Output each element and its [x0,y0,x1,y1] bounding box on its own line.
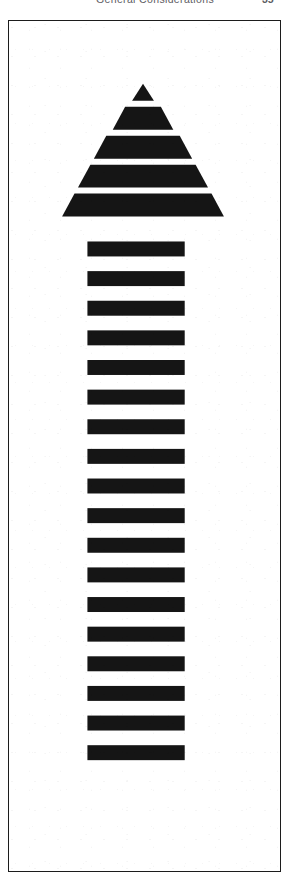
shaft-bar [87,508,184,523]
shaft-bar [87,390,184,405]
shaft-bar [87,449,184,464]
shaft-bar [87,567,184,582]
arrowhead [62,84,224,217]
shaft-bar [87,271,184,286]
arrowhead-band [78,165,208,188]
arrowhead-band [94,136,192,159]
shaft-bar [87,745,184,760]
shaft-bar [87,330,184,345]
shaft-bar [87,597,184,612]
shaft-bar [87,479,184,494]
page-number: 35 [262,0,274,5]
running-head-title: General Considerations [96,0,214,5]
running-head: General Considerations 35 [0,0,298,11]
shaft-bar [87,716,184,731]
shaft-bar [87,538,184,553]
arrowhead-band [132,84,154,101]
arrow-shaft [87,241,184,760]
shaft-bar [87,301,184,316]
shaft-bar [87,627,184,642]
shaft-bar [87,241,184,256]
shaft-bar [87,686,184,701]
striped-arrow-figure [9,21,280,871]
arrowhead-band [113,107,174,130]
arrowhead-band [62,194,224,217]
shaft-bar [87,360,184,375]
figure-frame [8,20,281,872]
shaft-bar [87,419,184,434]
shaft-bar [87,656,184,671]
